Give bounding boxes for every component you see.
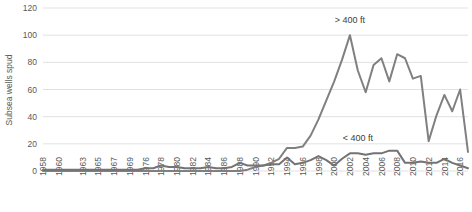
x-axis-tick-label: 1969 (125, 157, 135, 176)
y-axis-tick-label: 100 (23, 30, 37, 40)
x-axis-tick-label: 1982 (188, 157, 198, 176)
x-axis-tick-label: 2006 (377, 157, 387, 176)
y-axis-title: Subsea wells spud (4, 54, 14, 125)
y-axis-tick-label: 80 (28, 57, 38, 67)
y-axis-title-text: Subsea wells spud (4, 54, 14, 125)
chart-container: 020406080100120 Subsea wells spud 195819… (0, 0, 472, 212)
x-axis-tick-label: 1988 (235, 157, 245, 176)
y-axis-tick-label: 0 (32, 166, 37, 176)
y-axis-tick-labels: 020406080100120 (23, 3, 37, 176)
y-axis-tick-label: 40 (28, 112, 38, 122)
x-axis-tick-label: 1998 (314, 157, 324, 176)
x-axis-tick-label: 1958 (38, 157, 48, 176)
x-axis-tick-label: 2004 (361, 157, 371, 176)
x-axis-tick-label: 2002 (345, 157, 355, 176)
x-axis-tick-label: 2012 (424, 157, 434, 176)
y-axis-tick-label: 60 (28, 85, 38, 95)
x-axis-tick-label: 1986 (219, 157, 229, 176)
x-axis-tick-label: 1996 (298, 157, 308, 176)
y-axis-tick-label: 120 (23, 3, 37, 13)
series-annotation-label: < 400 ft (343, 133, 374, 143)
line-chart: 020406080100120 Subsea wells spud 195819… (0, 0, 472, 212)
x-axis-tick-label: 1992 (266, 157, 276, 176)
x-axis-tick-label: 1960 (54, 157, 64, 176)
x-axis-tick-label: 2008 (392, 157, 402, 176)
x-axis-tick-label: 1963 (78, 157, 88, 176)
x-axis-tick-label: 1965 (93, 157, 103, 176)
y-axis-tick-label: 20 (28, 139, 38, 149)
series-annotation-label: > 400 ft (335, 15, 366, 25)
x-axis-tick-label: 1976 (141, 157, 151, 176)
x-axis-tick-label: 1967 (109, 157, 119, 176)
x-axis-tick-label: 2010 (408, 157, 418, 176)
